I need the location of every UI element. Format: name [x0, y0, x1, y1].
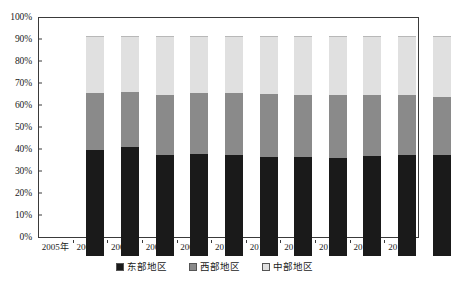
- x-axis-tick-mark: [211, 240, 212, 243]
- bar-segment[interactable]: [190, 36, 208, 93]
- y-axis-tick-label: 0%: [20, 232, 32, 242]
- bar-segment[interactable]: [86, 93, 104, 150]
- bar-stack: [260, 36, 278, 256]
- bar-group[interactable]: [433, 36, 451, 256]
- y-axis-tick-label: 20%: [15, 188, 32, 198]
- bar-segment[interactable]: [86, 36, 104, 93]
- bar-segment[interactable]: [294, 36, 312, 95]
- legend-swatch-icon: [116, 263, 124, 271]
- y-axis-tick-mark: [38, 83, 42, 84]
- bar-segment[interactable]: [225, 36, 243, 93]
- x-axis-tick-mark: [142, 240, 143, 243]
- bar-segment[interactable]: [260, 94, 278, 157]
- bar-segment[interactable]: [225, 93, 243, 155]
- y-axis-tick-label: 30%: [15, 166, 32, 176]
- bar-stack: [433, 36, 451, 256]
- plot-area: [38, 17, 419, 238]
- x-axis-tick-mark: [280, 240, 281, 243]
- chart-legend: 东部地区西部地区中部地区: [0, 262, 429, 272]
- legend-item[interactable]: 中部地区: [262, 262, 313, 272]
- y-axis-tick-label: 100%: [10, 12, 32, 22]
- legend-swatch-icon: [262, 263, 270, 271]
- bar-segment[interactable]: [294, 95, 312, 157]
- x-axis-tick-label: 2008年: [146, 242, 173, 253]
- bar-group[interactable]: [294, 36, 312, 256]
- legend-item-label: 东部地区: [127, 262, 167, 272]
- bar-group[interactable]: [398, 36, 416, 256]
- x-axis-tick-label: 2010年: [215, 242, 242, 253]
- bar-stack: [156, 36, 174, 256]
- bar-group[interactable]: [86, 36, 104, 256]
- bar-stack: [329, 36, 347, 256]
- bar-stack: [86, 36, 104, 256]
- x-axis-tick-mark: [246, 240, 247, 243]
- bar-group[interactable]: [329, 36, 347, 256]
- y-axis-tick-mark: [38, 105, 42, 106]
- y-axis: 0%10%20%30%40%50%60%70%80%90%100%: [0, 17, 36, 238]
- x-axis: 2005年2006年2007年2008年2009年2010年2011年2012年…: [38, 240, 419, 256]
- bar-stack: [398, 36, 416, 256]
- x-axis-tick-label: 2012年: [284, 242, 311, 253]
- y-axis-tick-label: 40%: [15, 144, 32, 154]
- bar-segment[interactable]: [433, 36, 451, 97]
- bar-group[interactable]: [225, 36, 243, 256]
- bar-stack: [190, 36, 208, 256]
- x-axis-tick-mark: [384, 240, 385, 243]
- y-axis-tick-mark: [38, 127, 42, 128]
- bar-group[interactable]: [363, 36, 381, 256]
- bar-segment[interactable]: [121, 36, 139, 92]
- legend-item-label: 西部地区: [200, 262, 240, 272]
- legend-item[interactable]: 西部地区: [189, 262, 240, 272]
- y-axis-tick-label: 80%: [15, 56, 32, 66]
- bar-segment[interactable]: [433, 155, 451, 256]
- bar-segment[interactable]: [329, 36, 347, 95]
- y-axis-tick-mark: [38, 61, 42, 62]
- bar-group[interactable]: [260, 36, 278, 256]
- x-axis-tick-label: 2006年: [76, 242, 103, 253]
- bar-segment[interactable]: [190, 93, 208, 154]
- bar-segment[interactable]: [398, 95, 416, 154]
- x-axis-tick-label: 2009年: [180, 242, 207, 253]
- bar-stack: [121, 36, 139, 256]
- y-axis-tick-label: 70%: [15, 78, 32, 88]
- bar-segment[interactable]: [260, 36, 278, 94]
- x-axis-tick-mark: [73, 240, 74, 243]
- bar-segment[interactable]: [398, 36, 416, 95]
- y-axis-tick-mark: [38, 215, 42, 216]
- legend-swatch-icon: [189, 263, 197, 271]
- bar-segment[interactable]: [433, 97, 451, 155]
- legend-item[interactable]: 东部地区: [116, 262, 167, 272]
- bar-segment[interactable]: [363, 95, 381, 156]
- bar-stack: [363, 36, 381, 256]
- y-axis-tick-label: 50%: [15, 122, 32, 132]
- y-axis-tick-mark: [38, 193, 42, 194]
- bar-group[interactable]: [190, 36, 208, 256]
- y-axis-tick-label: 10%: [15, 210, 32, 220]
- x-axis-tick-label: 2014年: [354, 242, 381, 253]
- bar-segment[interactable]: [363, 36, 381, 95]
- bar-group[interactable]: [156, 36, 174, 256]
- x-axis-tick-mark: [107, 240, 108, 243]
- x-axis-tick-label: 2013年: [319, 242, 346, 253]
- x-axis-tick-label: 2011年: [250, 242, 277, 253]
- y-axis-tick-mark: [38, 171, 42, 172]
- y-axis-tick-label: 60%: [15, 100, 32, 110]
- x-axis-tick-label: 2007年: [111, 242, 138, 253]
- bar-segment[interactable]: [121, 92, 139, 147]
- bar-stack: [225, 36, 243, 256]
- y-axis-tick-mark: [38, 149, 42, 150]
- y-axis-tick-mark: [38, 39, 42, 40]
- x-axis-tick-mark: [350, 240, 351, 243]
- bar-group[interactable]: [121, 36, 139, 256]
- bar-stack: [294, 36, 312, 256]
- x-axis-tick-label: 2005年: [42, 242, 69, 253]
- bar-segment[interactable]: [156, 36, 174, 95]
- x-axis-tick-mark: [315, 240, 316, 243]
- bars-layer: [78, 36, 455, 256]
- bar-segment[interactable]: [156, 95, 174, 154]
- x-axis-tick-mark: [177, 240, 178, 243]
- x-axis-tick-label: 2015年: [388, 242, 415, 253]
- bar-segment[interactable]: [329, 95, 347, 158]
- legend-item-label: 中部地区: [273, 262, 313, 272]
